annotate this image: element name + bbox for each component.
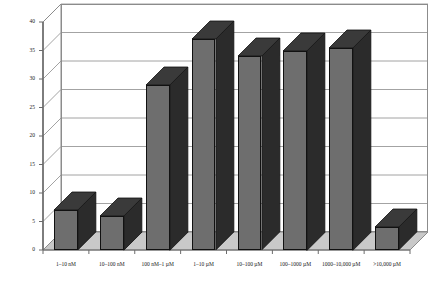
bar-column bbox=[238, 56, 262, 250]
bar-3d-faces bbox=[54, 192, 98, 252]
bar-3d-faces bbox=[100, 198, 144, 252]
bar-chart: 0510152025303540 1–10 nM10–100 nM100 nM–… bbox=[0, 0, 447, 286]
bar-side-face bbox=[170, 67, 188, 250]
x-tick-label: 10–100 µM bbox=[236, 261, 262, 267]
bar-column bbox=[375, 227, 399, 250]
bar-column bbox=[283, 51, 307, 251]
bar-3d-faces bbox=[329, 30, 373, 252]
x-tick-label: 10–100 nM bbox=[99, 261, 125, 267]
x-tick-label: 100 nM–1 µM bbox=[142, 261, 174, 267]
bar-series bbox=[0, 0, 447, 286]
bar-side-face bbox=[261, 38, 279, 250]
bar-side-face bbox=[353, 30, 371, 250]
bar-column bbox=[192, 39, 216, 250]
x-tick-label: 1–10 nM bbox=[56, 261, 76, 267]
bar-3d-faces bbox=[375, 209, 419, 252]
x-tick-label: 1000–10,000 µM bbox=[322, 261, 360, 267]
bar-3d-faces bbox=[146, 67, 190, 252]
bar-3d-faces bbox=[192, 21, 236, 252]
bar-3d-faces bbox=[238, 38, 282, 252]
bar-side-face bbox=[215, 21, 233, 250]
x-tick-label: >10,000 µM bbox=[373, 261, 401, 267]
bar-side-face bbox=[307, 33, 325, 251]
x-tick-label: 100–1000 µM bbox=[280, 261, 311, 267]
bar-column bbox=[146, 85, 170, 250]
bar-3d-faces bbox=[283, 33, 327, 253]
bar-column bbox=[54, 210, 78, 250]
bar-column bbox=[100, 216, 124, 250]
x-tick-label: 1–10 µM bbox=[193, 261, 213, 267]
bar-column bbox=[329, 48, 353, 250]
